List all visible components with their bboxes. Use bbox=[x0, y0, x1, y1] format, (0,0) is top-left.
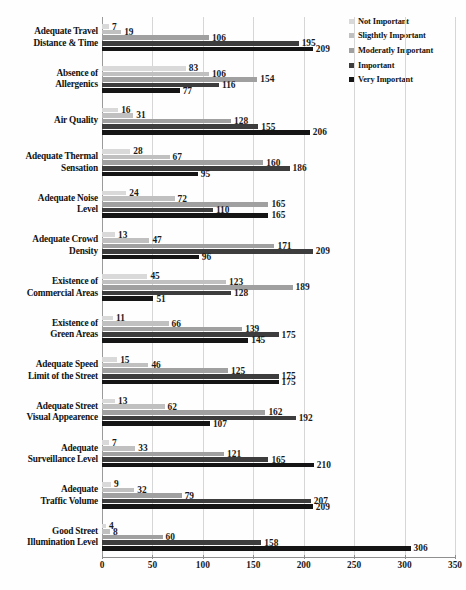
bar[interactable] bbox=[102, 327, 242, 332]
bar[interactable] bbox=[102, 88, 180, 93]
bar[interactable] bbox=[102, 208, 213, 213]
bar[interactable] bbox=[102, 504, 313, 509]
bar-row: 79 bbox=[102, 493, 455, 498]
bar[interactable] bbox=[102, 24, 109, 29]
bar[interactable] bbox=[102, 404, 165, 409]
bar[interactable] bbox=[102, 160, 263, 165]
bar[interactable] bbox=[102, 35, 209, 40]
bar[interactable] bbox=[102, 296, 153, 301]
bar-row: 210 bbox=[102, 463, 455, 468]
bar[interactable] bbox=[102, 172, 198, 177]
bar-row: 83 bbox=[102, 66, 455, 71]
category-label-line: Allergenics bbox=[0, 79, 98, 90]
bar[interactable] bbox=[102, 285, 293, 290]
category-label-line: Level bbox=[0, 204, 98, 215]
bar[interactable] bbox=[102, 399, 115, 404]
y-axis-category-label: AdequateSurveillance Level bbox=[0, 443, 98, 466]
bar-row: 165 bbox=[102, 213, 455, 218]
bar-group: 1546125175175 bbox=[102, 357, 455, 384]
x-axis-tick-label: 300 bbox=[398, 560, 412, 570]
category-label-line: Green Areas bbox=[0, 329, 98, 340]
bar-row: 77 bbox=[102, 88, 455, 93]
bar[interactable] bbox=[102, 535, 163, 540]
bar-row: 28 bbox=[102, 149, 455, 154]
bar[interactable] bbox=[102, 130, 310, 135]
bar[interactable] bbox=[102, 463, 314, 468]
bar[interactable] bbox=[102, 30, 121, 35]
bar[interactable] bbox=[102, 149, 130, 154]
bar[interactable] bbox=[102, 274, 147, 279]
bar-row: 46 bbox=[102, 363, 455, 368]
bar-row: 13 bbox=[102, 399, 455, 404]
x-axis-tick-mark bbox=[203, 555, 204, 559]
bar[interactable] bbox=[102, 196, 175, 201]
bar[interactable] bbox=[102, 213, 268, 218]
bar[interactable] bbox=[102, 357, 117, 362]
bar-row: 175 bbox=[102, 332, 455, 337]
bar[interactable] bbox=[102, 244, 274, 249]
bar[interactable] bbox=[102, 440, 109, 445]
bar-value-label: 209 bbox=[313, 44, 330, 54]
bar[interactable] bbox=[102, 446, 135, 451]
bar[interactable] bbox=[102, 488, 134, 493]
bar-row: 192 bbox=[102, 416, 455, 421]
bar-value-label: 175 bbox=[279, 377, 296, 387]
bar-row: 209 bbox=[102, 249, 455, 254]
bar-row: 7 bbox=[102, 440, 455, 445]
bar[interactable] bbox=[102, 124, 258, 129]
bar[interactable] bbox=[102, 66, 186, 71]
bar-value-label: 77 bbox=[180, 86, 192, 96]
category-label-line: Adequate Noise bbox=[0, 193, 98, 204]
bar[interactable] bbox=[102, 493, 182, 498]
bar[interactable] bbox=[102, 338, 248, 343]
bar-row: 45 bbox=[102, 274, 455, 279]
bar-group: 1166139175145 bbox=[102, 316, 455, 343]
bar[interactable] bbox=[102, 546, 411, 551]
bar[interactable] bbox=[102, 363, 148, 368]
bar-value-label: 51 bbox=[153, 294, 165, 304]
bar[interactable] bbox=[102, 380, 279, 385]
bar[interactable] bbox=[102, 47, 313, 52]
bar-row: 19 bbox=[102, 30, 455, 35]
bar[interactable] bbox=[102, 166, 290, 171]
bar[interactable] bbox=[102, 416, 296, 421]
bar[interactable] bbox=[102, 238, 149, 243]
bar[interactable] bbox=[102, 368, 228, 373]
bar[interactable] bbox=[102, 316, 113, 321]
bar[interactable] bbox=[102, 321, 169, 326]
bar[interactable] bbox=[102, 155, 170, 160]
bar[interactable] bbox=[102, 280, 226, 285]
bar[interactable] bbox=[102, 72, 209, 77]
bar[interactable] bbox=[102, 529, 110, 534]
bar[interactable] bbox=[102, 232, 115, 237]
y-axis-category-label: Air Quality bbox=[0, 115, 98, 126]
plot-area: 7191061952098310615411677163112815520628… bbox=[102, 17, 455, 558]
bar-value-label: 165 bbox=[268, 210, 285, 220]
bar[interactable] bbox=[102, 83, 219, 88]
bar[interactable] bbox=[102, 119, 231, 124]
bar[interactable] bbox=[102, 108, 118, 113]
bar-value-label: 107 bbox=[210, 419, 227, 429]
bar[interactable] bbox=[102, 540, 261, 545]
bar[interactable] bbox=[102, 255, 199, 260]
bar-row: 33 bbox=[102, 446, 455, 451]
bar[interactable] bbox=[102, 482, 111, 487]
bar[interactable] bbox=[102, 191, 126, 196]
bar[interactable] bbox=[102, 113, 133, 118]
x-axis-tick-label: 50 bbox=[148, 560, 157, 570]
bar[interactable] bbox=[102, 41, 299, 46]
bar-value-label: 95 bbox=[198, 169, 210, 179]
bar[interactable] bbox=[102, 421, 210, 426]
bar[interactable] bbox=[102, 452, 224, 457]
bar[interactable] bbox=[102, 374, 279, 379]
bar[interactable] bbox=[102, 202, 268, 207]
bar[interactable] bbox=[102, 499, 311, 504]
bar[interactable] bbox=[102, 291, 231, 296]
bar[interactable] bbox=[102, 410, 265, 415]
bar-row: 106 bbox=[102, 35, 455, 40]
bar-row: 306 bbox=[102, 546, 455, 551]
category-label-line: Limit of the Street bbox=[0, 371, 98, 382]
bar[interactable] bbox=[102, 457, 268, 462]
bar-row: 165 bbox=[102, 457, 455, 462]
bar-row: 162 bbox=[102, 410, 455, 415]
